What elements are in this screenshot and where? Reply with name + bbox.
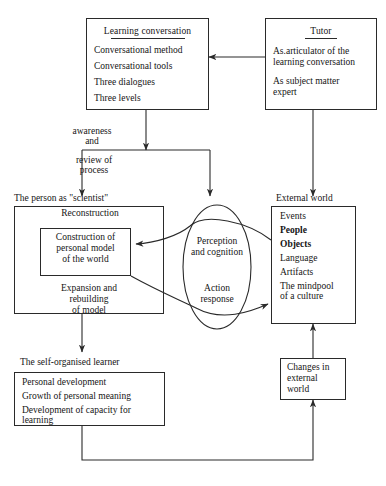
edge-action-to-external-world	[131, 276, 268, 315]
diagram-canvas: Learning conversation Conversational met…	[0, 0, 386, 486]
cognition-flow-arrows	[0, 0, 386, 486]
edge-perception-to-model	[136, 219, 271, 244]
